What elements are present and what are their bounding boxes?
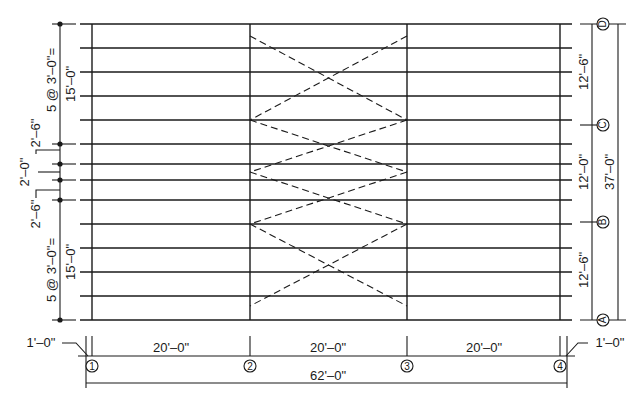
grid-bubble-B: B bbox=[597, 216, 609, 228]
left-top-spacing-label: 5 @ 3'–0"= bbox=[44, 48, 59, 112]
svg-text:A: A bbox=[597, 316, 608, 323]
grid-bubble-4: 4 bbox=[554, 360, 566, 372]
left-middle-gap-label: 2'–0" bbox=[17, 157, 32, 186]
svg-text:1: 1 bbox=[89, 361, 95, 372]
grid-bubble-A: A bbox=[597, 314, 609, 326]
girder-lines bbox=[92, 24, 560, 320]
right-c-to-b-label: 12'–0" bbox=[576, 154, 591, 190]
joist-lines bbox=[80, 24, 572, 320]
right-overall-label: 37'–0" bbox=[602, 154, 617, 190]
right-d-to-c-label: 12'–6" bbox=[576, 54, 591, 90]
grid-bubble-C: C bbox=[597, 119, 609, 131]
svg-text:C: C bbox=[597, 121, 608, 128]
grid-bubble-1: 1 bbox=[86, 360, 98, 372]
grid-bubble-D: D bbox=[597, 18, 609, 30]
svg-text:3: 3 bbox=[404, 361, 410, 372]
overall-width-dimension: 62'–0" bbox=[310, 368, 346, 383]
right-overhang-dimension: 1'–0" bbox=[596, 335, 625, 350]
svg-text:4: 4 bbox=[557, 361, 563, 372]
svg-text:B: B bbox=[597, 218, 608, 225]
left-bottom-total-label: 15'–0" bbox=[63, 244, 78, 280]
bay-2-dimension: 20'–0" bbox=[310, 340, 346, 355]
left-top-total-label: 15'–0" bbox=[63, 66, 78, 102]
plan-svg: 5 @ 3'–0"= 15'–0" 2'–6" 2'–0" 2'–6" 5 @ … bbox=[0, 0, 641, 405]
grid-bubble-3: 3 bbox=[401, 360, 413, 372]
right-b-to-a-label: 12'–6" bbox=[576, 252, 591, 288]
left-upper-gap-label: 2'–6" bbox=[28, 118, 43, 147]
bay-1-dimension: 20'–0" bbox=[153, 340, 189, 355]
left-overhang-dimension: 1'–0" bbox=[27, 335, 56, 350]
x-bracing bbox=[250, 36, 407, 306]
svg-text:2: 2 bbox=[247, 361, 253, 372]
left-lower-gap-label: 2'–6" bbox=[28, 199, 43, 228]
grid-bubble-2: 2 bbox=[244, 360, 256, 372]
left-bottom-spacing-label: 5 @ 3'–0"= bbox=[44, 238, 59, 302]
svg-text:D: D bbox=[597, 20, 608, 27]
bay-3-dimension: 20'–0" bbox=[466, 340, 502, 355]
framing-plan-drawing: 5 @ 3'–0"= 15'–0" 2'–6" 2'–0" 2'–6" 5 @ … bbox=[0, 0, 641, 405]
